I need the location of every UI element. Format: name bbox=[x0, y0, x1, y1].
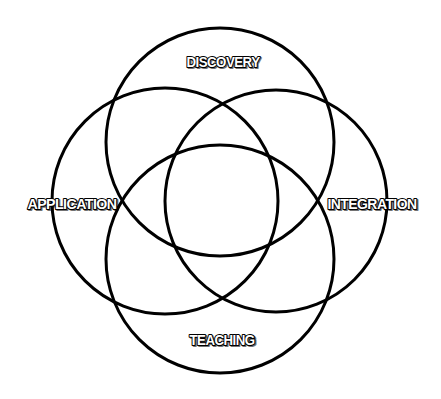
label-discovery: DISCOVERY bbox=[187, 53, 261, 70]
label-teaching: TEACHING bbox=[190, 331, 255, 348]
label-integration: INTEGRATION bbox=[328, 195, 417, 212]
label-application: APPLICATION bbox=[28, 195, 117, 212]
venn-diagram: DISCOVERY DISCOVERY APPLICATION APPLICAT… bbox=[0, 0, 441, 399]
labels-group: DISCOVERY DISCOVERY APPLICATION APPLICAT… bbox=[28, 53, 418, 349]
